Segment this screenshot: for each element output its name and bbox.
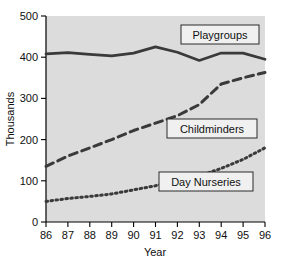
x-tick-label-90: 90 [127, 229, 139, 241]
x-tick-label-91: 91 [149, 229, 161, 241]
legend-label-playgroups: Playgroups [192, 29, 248, 41]
x-tick-label-89: 89 [106, 229, 118, 241]
x-tick-label-94: 94 [215, 229, 227, 241]
y-axis-title: Thousands [4, 91, 16, 146]
y-tick-label-300: 300 [20, 92, 38, 104]
legend-playgroups: Playgroups [181, 25, 259, 44]
y-tick-label-200: 200 [20, 134, 38, 146]
x-tick-label-95: 95 [237, 229, 249, 241]
x-tick-label-93: 93 [193, 229, 205, 241]
legend-day-nurseries: Day Nurseries [159, 172, 253, 191]
y-tick-label-0: 0 [32, 216, 38, 228]
chart-container: 500 400 300 200 100 0 Thousands 86 87 88… [0, 0, 285, 264]
x-tick-label-87: 87 [62, 229, 74, 241]
x-tick-label-88: 88 [84, 229, 96, 241]
y-tick-label-400: 400 [20, 51, 38, 63]
legend-label-day-nurseries: Day Nurseries [171, 176, 241, 188]
legend-label-childminders: Childminders [180, 123, 245, 135]
x-tick-label-92: 92 [171, 229, 183, 241]
legend-childminders: Childminders [167, 119, 257, 138]
y-tick-label-500: 500 [20, 10, 38, 22]
line-chart: 500 400 300 200 100 0 Thousands 86 87 88… [0, 0, 285, 264]
y-tick-label-100: 100 [20, 175, 38, 187]
x-axis-title: Year [144, 246, 167, 258]
x-tick-label-96: 96 [259, 229, 271, 241]
x-tick-label-86: 86 [40, 229, 52, 241]
